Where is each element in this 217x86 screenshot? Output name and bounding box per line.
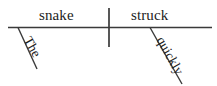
subject-word-snake: snake — [39, 8, 74, 23]
sentence-diagram: snake struck The quickly — [0, 0, 217, 86]
verb-word-struck: struck — [131, 8, 168, 23]
